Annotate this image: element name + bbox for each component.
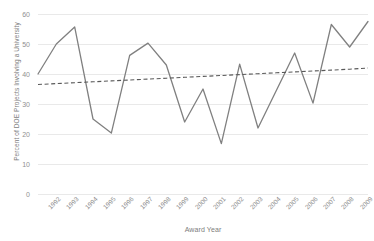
x-tick-1994: 1994	[84, 196, 99, 211]
x-tick-1992: 1992	[47, 196, 62, 211]
x-tick-1995: 1995	[102, 196, 117, 211]
x-tick-2000: 2000	[194, 196, 209, 211]
x-tick-1996: 1996	[121, 196, 136, 211]
x-axis-tick-labels: 1992199319941995199619971998199920002001…	[38, 196, 368, 226]
chart-container: 0102030405060 Percent of DOE Projects In…	[0, 0, 374, 241]
x-tick-1998: 1998	[157, 196, 172, 211]
x-tick-2002: 2002	[231, 196, 246, 211]
x-tick-2005: 2005	[286, 196, 301, 211]
x-axis-title: Award Year	[38, 226, 368, 233]
x-tick-2007: 2007	[322, 196, 337, 211]
x-tick-2001: 2001	[212, 196, 227, 211]
x-tick-2003: 2003	[249, 196, 264, 211]
x-tick-2006: 2006	[304, 196, 319, 211]
x-tick-1993: 1993	[66, 196, 81, 211]
x-tick-2004: 2004	[267, 196, 282, 211]
x-tick-1999: 1999	[176, 196, 191, 211]
x-tick-2008: 2008	[341, 196, 356, 211]
x-tick-1997: 1997	[139, 196, 154, 211]
